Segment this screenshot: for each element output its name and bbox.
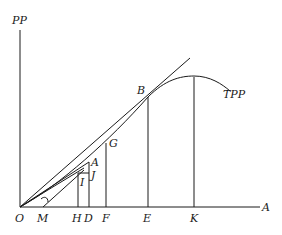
label-a: A [90, 156, 99, 169]
label-j: J [89, 169, 96, 182]
angle-arc-m [41, 197, 48, 202]
label-e: E [142, 212, 151, 225]
diagram-canvas: PP A TPP O M H D F E K B G A J I [0, 0, 282, 235]
label-f: F [101, 212, 110, 225]
ray-ob [20, 58, 190, 207]
label-x-axis: A [261, 201, 270, 214]
label-y-axis: PP [11, 14, 27, 27]
label-i: I [79, 176, 85, 189]
label-h: H [71, 212, 82, 225]
label-d: D [83, 212, 93, 225]
label-curve: TPP [223, 88, 246, 101]
label-k: K [189, 212, 199, 225]
label-m: M [36, 212, 49, 225]
label-o: O [15, 212, 24, 225]
label-b: B [136, 84, 145, 97]
ray-oi [20, 168, 84, 207]
label-g: G [109, 137, 118, 150]
